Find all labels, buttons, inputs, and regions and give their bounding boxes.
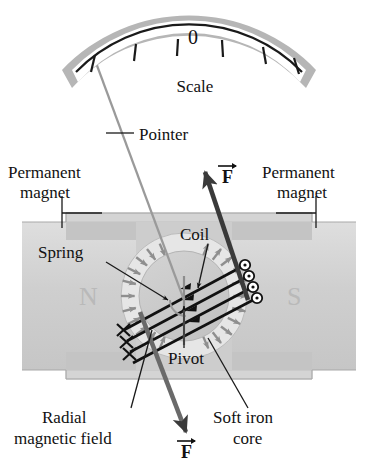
scale-tick-4	[222, 40, 223, 57]
label-magnet-right-line1: Permanent	[262, 163, 335, 182]
force-lower-vector-head	[191, 438, 196, 444]
galvanometer-diagram: N S	[0, 0, 378, 476]
label-spring: Spring	[38, 243, 84, 262]
force-label-lower: F	[177, 438, 196, 462]
scale-caption: Scale	[177, 77, 214, 96]
label-radial-field-line1: Radial	[42, 408, 87, 427]
label-pivot: Pivot	[168, 349, 204, 368]
scale-tick-2	[134, 44, 136, 61]
label-magnet-left-line2: magnet	[20, 183, 70, 202]
label-radial-field-line2: magnetic field	[14, 429, 112, 448]
figure-canvas: N S	[0, 0, 378, 476]
force-label-upper: F	[218, 163, 237, 187]
force-lower-text: F	[181, 442, 192, 462]
pole-piece-left-top	[66, 222, 136, 240]
scale-zero-label: 0	[188, 26, 198, 48]
label-pointer: Pointer	[139, 125, 188, 144]
pole-label-south: S	[287, 282, 301, 311]
pole-piece-right-bottom	[232, 352, 312, 370]
label-magnet-right-line2: magnet	[277, 183, 327, 202]
label-coil: Coil	[180, 225, 210, 244]
force-upper-text: F	[222, 167, 233, 187]
label-soft-iron-line2: core	[233, 429, 262, 448]
label-soft-iron-line1: Soft iron	[213, 408, 273, 427]
magnet-bottom-bar	[66, 370, 312, 379]
scale-tick-3	[177, 39, 178, 56]
magnet-top-bar	[66, 213, 312, 222]
label-magnet-left-line1: Permanent	[8, 163, 81, 182]
force-upper-vector-head	[232, 163, 237, 169]
pole-piece-left-bottom	[66, 352, 136, 370]
pole-label-north: N	[79, 282, 98, 311]
pole-piece-right-top	[232, 222, 312, 240]
